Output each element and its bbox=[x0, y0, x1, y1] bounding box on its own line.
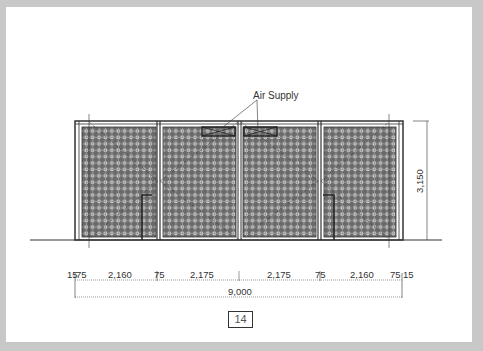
page-number: 14 bbox=[228, 311, 253, 328]
height-dimension: 3,150 bbox=[414, 169, 425, 193]
dimension-label: 2,175 bbox=[190, 269, 214, 280]
panel-2 bbox=[160, 122, 238, 239]
dimension-label: 15 bbox=[403, 269, 414, 280]
dimension-label: 2,160 bbox=[350, 269, 374, 280]
elevation-drawing: Air Supply 3,150 15 75 2,160 75 2,175 2,… bbox=[0, 0, 483, 351]
dimension-label: 2,160 bbox=[108, 269, 132, 280]
panel-4 bbox=[321, 114, 396, 248]
panel-1 bbox=[82, 114, 160, 248]
air-supply-label: Air Supply bbox=[253, 90, 299, 101]
dimension-label: 75 bbox=[315, 269, 326, 280]
dimension-label: 75 bbox=[390, 269, 401, 280]
dimension-label: 75 bbox=[76, 269, 87, 280]
panel-3 bbox=[241, 122, 318, 239]
dimension-label: 2,175 bbox=[267, 269, 291, 280]
dimension-label: 75 bbox=[154, 269, 165, 280]
overall-width-dimension: 9,000 bbox=[228, 286, 252, 297]
